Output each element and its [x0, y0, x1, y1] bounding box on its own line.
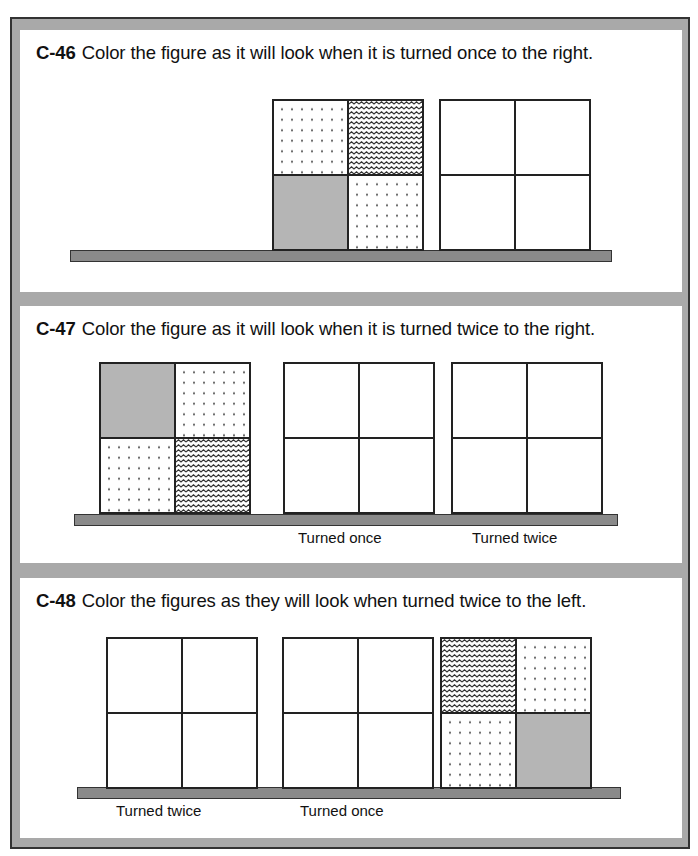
answer-cell[interactable]: [284, 639, 357, 712]
cell-wavy: [349, 101, 422, 174]
answer-cell[interactable]: [359, 714, 432, 787]
cell-dotted: [176, 364, 249, 437]
answer-cell[interactable]: [108, 639, 181, 712]
answer-cell[interactable]: [108, 714, 181, 787]
instruction: Color the figure as it will look when it…: [82, 318, 595, 339]
problem-c48: C-48Color the figures as they will look …: [20, 578, 682, 838]
instruction: Color the figures as they will look when…: [82, 590, 586, 611]
answer-cell[interactable]: [360, 439, 433, 512]
problem-id: C-47: [36, 318, 76, 339]
answer-cell[interactable]: [285, 439, 358, 512]
cell-dotted: [517, 639, 590, 712]
answer-cell[interactable]: [453, 364, 526, 437]
answer-cell[interactable]: [528, 439, 601, 512]
instruction: Color the figure as it will look when it…: [82, 42, 593, 63]
answer-cell[interactable]: [441, 101, 514, 174]
problem-prompt: C-48Color the figures as they will look …: [36, 590, 586, 612]
answer-cell[interactable]: [359, 639, 432, 712]
problem-c46: C-46Color the figure as it will look whe…: [20, 30, 682, 292]
problem-prompt: C-46Color the figure as it will look whe…: [36, 42, 593, 64]
label-turned-once: Turned once: [300, 802, 384, 819]
cell-gray: [101, 364, 174, 437]
shelf: [70, 250, 612, 262]
label-turned-twice: Turned twice: [472, 529, 557, 546]
cell-dotted: [349, 176, 422, 249]
answer-cell[interactable]: [516, 101, 589, 174]
cell-dotted: [101, 439, 174, 512]
label-turned-once: Turned once: [298, 529, 382, 546]
answer-figure-turned-twice[interactable]: [451, 362, 603, 514]
cell-dotted: [442, 714, 515, 787]
cell-dotted: [274, 101, 347, 174]
answer-cell[interactable]: [360, 364, 433, 437]
cell-gray: [274, 176, 347, 249]
answer-cell[interactable]: [285, 364, 358, 437]
answer-cell[interactable]: [183, 714, 256, 787]
answer-cell[interactable]: [183, 639, 256, 712]
answer-cell[interactable]: [453, 439, 526, 512]
given-figure: [272, 99, 424, 251]
problem-id: C-48: [36, 590, 76, 611]
answer-cell[interactable]: [441, 176, 514, 249]
given-figure: [440, 637, 592, 789]
answer-figure-turned-twice[interactable]: [106, 637, 258, 789]
answer-figure-turned-once[interactable]: [283, 362, 435, 514]
answer-cell[interactable]: [284, 714, 357, 787]
answer-cell[interactable]: [516, 176, 589, 249]
cell-wavy: [442, 639, 515, 712]
answer-cell[interactable]: [528, 364, 601, 437]
cell-gray: [517, 714, 590, 787]
given-figure: [99, 362, 251, 514]
cell-wavy: [176, 439, 249, 512]
answer-figure-turned-once[interactable]: [282, 637, 434, 789]
problem-id: C-46: [36, 42, 76, 63]
shelf: [74, 514, 618, 526]
problem-c47: C-47Color the figure as it will look whe…: [20, 306, 682, 563]
problem-prompt: C-47Color the figure as it will look whe…: [36, 318, 595, 340]
answer-figure[interactable]: [439, 99, 591, 251]
label-turned-twice: Turned twice: [116, 802, 201, 819]
